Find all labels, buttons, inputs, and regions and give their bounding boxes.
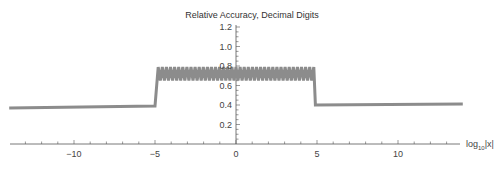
- y-tick-label: 0.8: [219, 61, 232, 71]
- axes: [10, 25, 460, 144]
- x-tick-label: −10: [66, 149, 81, 159]
- x-tick-label: 10: [393, 149, 403, 159]
- chart-plot: −10−505100.20.40.60.81.01.2log10|x|: [0, 0, 504, 170]
- x-tick-label: 0: [233, 149, 238, 159]
- y-tick-label: 0.2: [219, 120, 232, 130]
- y-tick-label: 0.4: [219, 100, 232, 110]
- axis-labels: −10−505100.20.40.60.81.01.2log10|x|: [66, 22, 494, 159]
- y-tick-label: 1.0: [219, 42, 232, 52]
- y-tick-label: 1.2: [219, 22, 232, 32]
- y-tick-label: 0.6: [219, 81, 232, 91]
- x-tick-label: 5: [314, 149, 319, 159]
- x-axis-label: log10|x|: [466, 139, 494, 151]
- x-tick-label: −5: [150, 149, 160, 159]
